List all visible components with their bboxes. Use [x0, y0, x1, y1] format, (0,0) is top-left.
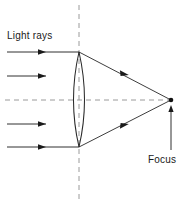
- incoming-ray-4-arrowhead: [38, 144, 46, 149]
- refracted-ray-upper-arrowhead: [120, 70, 129, 76]
- light-rays-label: Light rays: [7, 30, 52, 41]
- focus-label: Focus: [148, 154, 176, 165]
- incoming-ray-2-arrowhead: [38, 73, 46, 78]
- incoming-ray-1-arrowhead: [38, 49, 46, 54]
- focus-point-dot: [169, 98, 174, 103]
- lens-ray-diagram: Light rays Focus: [0, 0, 191, 206]
- focus-pointer-arrowhead: [168, 105, 173, 112]
- refracted-ray-lower: [79, 100, 171, 147]
- refracted-ray-upper: [79, 52, 171, 100]
- refracted-ray-lower-arrowhead: [120, 123, 129, 129]
- incoming-ray-3-arrowhead: [38, 121, 46, 126]
- focus-pointer: [168, 105, 173, 150]
